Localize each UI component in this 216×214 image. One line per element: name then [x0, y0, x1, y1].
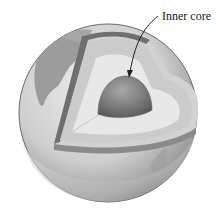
earth-diagram: Inner core — [0, 0, 216, 214]
inner-core-label: Inner core — [162, 9, 211, 24]
earth-cutaway-illustration — [0, 0, 216, 214]
